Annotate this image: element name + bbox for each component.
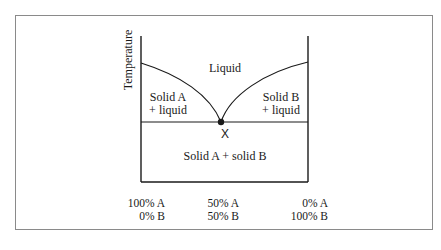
y-axis-label: Temperature xyxy=(121,30,135,90)
region-solid-a-liquid-line1: Solid A xyxy=(150,90,187,104)
x-label-left-line2: 0% B xyxy=(139,210,165,222)
x-label-middle-line2: 50% B xyxy=(207,210,239,222)
region-solid-b-liquid-line1: Solid B xyxy=(263,90,299,104)
x-label-right-line2: 100% B xyxy=(291,210,329,222)
x-label-left-line1: 100% A xyxy=(128,197,166,209)
phase-diagram: Temperature Liquid Solid A + liquid Soli… xyxy=(0,0,441,250)
region-solid-b-liquid-line2: + liquid xyxy=(262,103,300,117)
x-label-right-line1: 0% A xyxy=(302,197,329,209)
eutectic-point xyxy=(218,119,224,125)
x-label-middle-line1: 50% A xyxy=(207,197,239,209)
region-liquid: Liquid xyxy=(209,61,241,75)
eutectic-marker: X xyxy=(221,127,229,141)
region-solid-a-solid-b: Solid A + solid B xyxy=(184,149,267,163)
region-solid-a-liquid-line2: + liquid xyxy=(149,103,187,117)
